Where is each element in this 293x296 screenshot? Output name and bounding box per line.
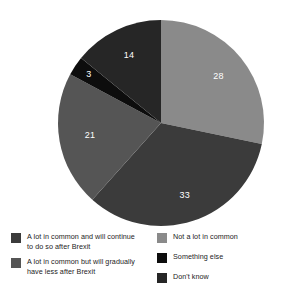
pie-chart: 283321314 <box>0 0 293 232</box>
pie-slice-value-label: 14 <box>124 50 135 60</box>
legend-label-a-lot-continue: A lot in common and will continue to do … <box>27 232 135 251</box>
legend-label-something-else: Something else <box>173 252 223 262</box>
legend-column-right: Not a lot in common Something else Don't… <box>157 232 293 292</box>
pie-slice-value-label: 33 <box>179 190 190 200</box>
legend-column-left: A lot in common and will continue to do … <box>11 232 151 282</box>
legend-item-dont-know[interactable]: Don't know <box>157 272 293 283</box>
pie-chart-svg: 283321314 <box>0 0 293 232</box>
pie-slice-group <box>58 20 264 226</box>
pie-slice-value-label: 3 <box>86 69 91 79</box>
chart-legend: A lot in common and will continue to do … <box>0 232 293 296</box>
legend-item-a-lot-gradually-less[interactable]: A lot in common but will gradually have … <box>11 257 151 276</box>
legend-label-dont-know: Don't know <box>173 272 209 282</box>
pie-slice-value-label: 21 <box>85 130 96 140</box>
legend-item-a-lot-continue[interactable]: A lot in common and will continue to do … <box>11 232 151 251</box>
legend-label-a-lot-gradually-less: A lot in common but will gradually have … <box>27 257 135 276</box>
legend-swatch-dont-know <box>157 273 167 283</box>
legend-item-not-a-lot[interactable]: Not a lot in common <box>157 232 293 243</box>
pie-slice[interactable] <box>161 20 264 144</box>
legend-swatch-a-lot-continue <box>11 233 21 243</box>
legend-swatch-not-a-lot <box>157 233 167 243</box>
legend-item-something-else[interactable]: Something else <box>157 252 293 263</box>
legend-label-not-a-lot: Not a lot in common <box>173 232 238 242</box>
legend-swatch-a-lot-gradually-less <box>11 258 21 268</box>
legend-swatch-something-else <box>157 253 167 263</box>
pie-slice-value-label: 28 <box>213 71 224 81</box>
